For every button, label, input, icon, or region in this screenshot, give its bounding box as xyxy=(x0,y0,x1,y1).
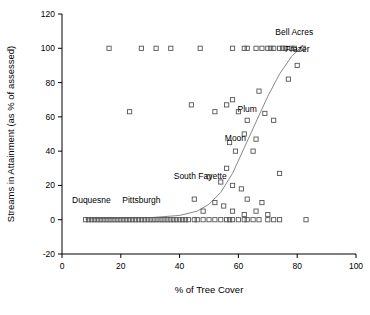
data-point xyxy=(192,218,196,222)
data-point xyxy=(213,110,217,114)
data-point xyxy=(178,218,182,222)
data-point xyxy=(242,218,246,222)
x-tick-label: 80 xyxy=(292,261,302,271)
y-tick-label: 20 xyxy=(46,180,56,190)
data-point xyxy=(236,218,240,222)
data-point xyxy=(86,218,90,222)
data-point xyxy=(201,209,205,213)
data-point xyxy=(257,89,261,93)
data-points-group xyxy=(83,46,308,222)
data-point xyxy=(239,187,243,191)
trend-line xyxy=(86,45,304,219)
data-point xyxy=(230,218,234,222)
data-point xyxy=(219,218,223,222)
data-point xyxy=(230,98,234,102)
trend-line-group xyxy=(86,45,304,219)
x-tick-label: 60 xyxy=(234,261,244,271)
x-axis-ticks: 020406080100 xyxy=(60,254,364,271)
x-tick-label: 100 xyxy=(349,261,363,271)
data-point xyxy=(222,204,226,208)
annotation-label: Bell Acres xyxy=(275,27,313,37)
data-point xyxy=(180,218,184,222)
data-point xyxy=(230,46,234,50)
x-tick-label: 40 xyxy=(175,261,185,271)
annotation-label: Frazer xyxy=(285,44,310,54)
data-point xyxy=(277,218,281,222)
data-point xyxy=(83,218,87,222)
x-axis-title: % of Tree Cover xyxy=(175,284,244,295)
data-point xyxy=(254,209,258,213)
data-point xyxy=(266,46,270,50)
y-tick-label: 60 xyxy=(46,112,56,122)
data-point xyxy=(272,218,276,222)
data-point xyxy=(245,118,249,122)
data-point xyxy=(107,46,111,50)
scatter-chart: -20020406080100120020406080100% of Tree … xyxy=(0,0,370,315)
data-point xyxy=(266,218,270,222)
data-point xyxy=(277,171,281,175)
data-point xyxy=(254,137,258,141)
data-point xyxy=(128,110,132,114)
annotations-group: Bell AcresFrazerPlumMoonSouth FayettePit… xyxy=(72,27,313,205)
data-point xyxy=(227,218,231,222)
data-point xyxy=(198,46,202,50)
y-tick-label: 80 xyxy=(46,78,56,88)
data-point xyxy=(148,218,152,222)
data-point xyxy=(245,218,249,222)
data-point xyxy=(213,200,217,204)
chart-canvas: -20020406080100120020406080100% of Tree … xyxy=(0,0,370,315)
annotation-label: Duquesne xyxy=(72,195,111,205)
data-point xyxy=(263,111,267,115)
data-point xyxy=(251,149,255,153)
y-tick-label: 100 xyxy=(41,43,55,53)
data-point xyxy=(195,218,199,222)
data-point xyxy=(295,63,299,67)
data-point xyxy=(260,200,264,204)
data-point xyxy=(192,197,196,201)
data-point xyxy=(225,103,229,107)
data-point xyxy=(172,218,176,222)
data-point xyxy=(186,218,190,222)
data-point xyxy=(242,212,246,216)
data-point xyxy=(251,218,255,222)
data-point xyxy=(257,218,261,222)
y-tick-label: 0 xyxy=(50,215,55,225)
data-point xyxy=(260,46,264,50)
data-point xyxy=(304,218,308,222)
annotation-label: Plum xyxy=(238,104,257,114)
data-point xyxy=(277,46,281,50)
data-point xyxy=(286,77,290,81)
data-point xyxy=(163,218,167,222)
annotation-label: Pittsburgh xyxy=(122,195,161,205)
data-point xyxy=(169,46,173,50)
data-point xyxy=(154,218,158,222)
data-point xyxy=(272,46,276,50)
data-point xyxy=(183,218,187,222)
data-point xyxy=(242,46,246,50)
data-point xyxy=(189,103,193,107)
data-point xyxy=(233,149,237,153)
data-point xyxy=(207,218,211,222)
x-tick-label: 20 xyxy=(116,261,126,271)
y-tick-label: -20 xyxy=(43,249,56,259)
x-tick-label: 0 xyxy=(60,261,65,271)
data-point xyxy=(139,46,143,50)
data-point xyxy=(157,218,161,222)
data-point xyxy=(245,197,249,201)
data-point xyxy=(225,218,229,222)
data-point xyxy=(169,218,173,222)
data-point xyxy=(166,218,170,222)
data-point xyxy=(254,46,258,50)
data-point xyxy=(154,46,158,50)
data-point xyxy=(160,218,164,222)
annotation-label: Moon xyxy=(225,133,247,143)
data-point xyxy=(230,183,234,187)
annotation-label: South Fayette xyxy=(174,171,227,181)
data-point xyxy=(272,118,276,122)
data-point xyxy=(201,218,205,222)
y-axis-ticks: -20020406080100120 xyxy=(41,9,62,259)
data-point xyxy=(151,218,155,222)
data-point xyxy=(175,218,179,222)
data-point xyxy=(245,46,249,50)
data-point xyxy=(89,218,93,222)
